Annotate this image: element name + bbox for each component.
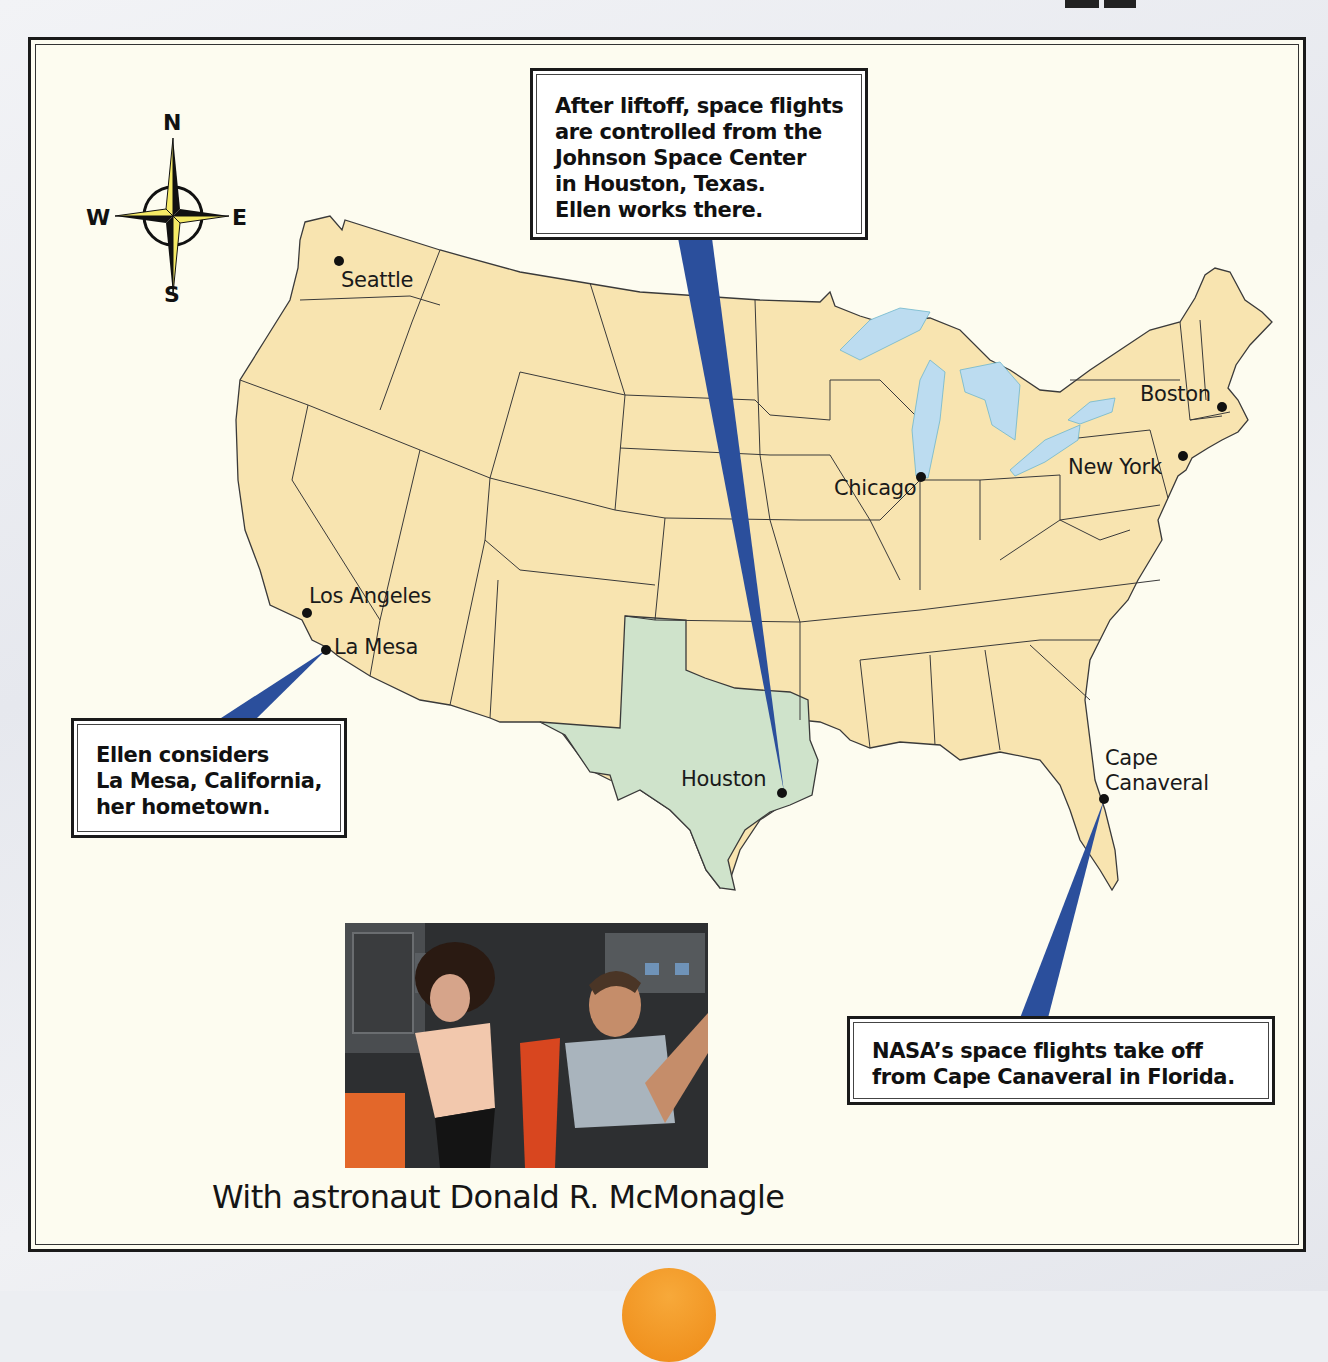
boston-dot-icon [1217, 402, 1227, 412]
los-angeles-dot-icon [302, 608, 312, 618]
compass-west-label: W [86, 205, 110, 230]
compass-south-label: S [164, 282, 180, 307]
callout-cape-canaveral: NASA’s space flights take off from Cape … [847, 1016, 1275, 1105]
callout-houston: After liftoff, space flights are control… [530, 68, 868, 240]
callout-houston-line: in Houston, Texas. [555, 171, 843, 197]
photo-caption: With astronaut Donald R. McMonagle [212, 1178, 784, 1216]
callout-cape-canaveral-line: NASA’s space flights take off [872, 1038, 1250, 1064]
houston-dot-icon [777, 788, 787, 798]
la-mesa-callout-pointer [218, 650, 326, 720]
city-label-boston: Boston [1140, 382, 1211, 406]
la-mesa-dot-icon [321, 645, 331, 655]
callout-la-mesa-body: Ellen considers La Mesa, California, her… [77, 724, 341, 832]
compass-rose-icon [115, 138, 229, 294]
callout-houston-line: Johnson Space Center [555, 145, 843, 171]
compass-north-label: N [163, 110, 181, 135]
callout-la-mesa: Ellen considers La Mesa, California, her… [71, 718, 347, 838]
page-number-disc [622, 1268, 716, 1362]
city-label-new-york: New York [1068, 455, 1162, 479]
chicago-dot-icon [916, 472, 926, 482]
callout-houston-line: After liftoff, space flights [555, 93, 843, 119]
city-label-houston: Houston [681, 767, 766, 791]
city-label-cape: Cape [1105, 746, 1158, 770]
callout-houston-line: are controlled from the [555, 119, 843, 145]
callout-cape-canaveral-line: from Cape Canaveral in Florida. [872, 1064, 1250, 1090]
city-label-chicago: Chicago [834, 476, 916, 500]
astronaut-photo [345, 923, 708, 1168]
city-label-los-angeles: Los Angeles [309, 584, 431, 608]
callout-cape-canaveral-body: NASA’s space flights take off from Cape … [853, 1022, 1269, 1099]
compass-east-label: E [232, 205, 247, 230]
cape-canaveral-dot-icon [1099, 794, 1109, 804]
new-york-dot-icon [1178, 451, 1188, 461]
city-label-la-mesa: La Mesa [334, 635, 418, 659]
callout-houston-body: After liftoff, space flights are control… [536, 74, 862, 234]
callout-la-mesa-line: Ellen considers [96, 742, 322, 768]
cape-canaveral-callout-pointer [1020, 800, 1104, 1018]
callout-la-mesa-line: La Mesa, California, [96, 768, 322, 794]
seattle-dot-icon [334, 256, 344, 266]
callout-houston-line: Ellen works there. [555, 197, 843, 223]
astronaut-photo-image [345, 923, 708, 1168]
callout-la-mesa-line: her hometown. [96, 794, 322, 820]
city-label-seattle: Seattle [341, 268, 413, 292]
city-label-canaveral: Canaveral [1105, 771, 1209, 795]
